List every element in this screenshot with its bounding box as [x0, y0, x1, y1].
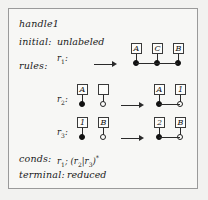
arrow-shaft	[121, 105, 139, 106]
node-marker-open	[100, 134, 106, 140]
node-box-B: B	[175, 117, 186, 128]
node-marker-open	[100, 101, 106, 107]
conds-label: conds:	[19, 153, 52, 164]
graph-edge	[159, 104, 180, 105]
node-box-2: 2	[154, 117, 165, 128]
conds-star: *	[96, 154, 99, 162]
graph-edge	[159, 137, 180, 138]
node-box-B: B	[173, 43, 184, 54]
terminal-label: terminal:	[19, 169, 65, 180]
node-marker-filled	[79, 134, 85, 140]
rewrite-arrow-icon	[121, 134, 143, 143]
arrow-shaft	[121, 138, 139, 139]
rule-name-r2: r2:	[57, 94, 68, 106]
rule-name-colon: :	[65, 127, 68, 137]
arrow-head	[139, 135, 144, 141]
figure-title: handle1	[19, 18, 59, 29]
rules-label: rules:	[19, 60, 48, 71]
initial-value: unlabeled	[57, 36, 104, 47]
arrow-head	[139, 102, 144, 108]
node-box-A: A	[154, 84, 165, 95]
node-box-1: 1	[175, 84, 186, 95]
rewrite-arrow-icon	[121, 101, 143, 110]
node-box-B: B	[98, 117, 109, 128]
figure-frame: handle1 initial: unlabeled rules: conds:…	[8, 8, 198, 189]
node-box-C: C	[152, 43, 163, 54]
node-box-A: A	[131, 43, 142, 54]
terminal-value: reduced	[67, 169, 106, 180]
node-box-A: A	[77, 84, 88, 95]
node-box-empty	[98, 84, 109, 95]
rewrite-arrow-icon	[94, 60, 116, 69]
arrow-shaft	[94, 64, 112, 65]
rule-name-r1: r1:	[57, 53, 68, 65]
node-marker-filled	[79, 101, 85, 107]
graph-edge	[136, 63, 178, 64]
node-box-1: 1	[77, 117, 88, 128]
initial-label: initial:	[19, 36, 52, 47]
arrow-head	[112, 61, 117, 67]
rule-name-r3: r3:	[57, 127, 68, 139]
rule-name-colon: :	[65, 53, 68, 63]
conds-sep: ; (	[65, 156, 74, 166]
rule-name-colon: :	[65, 94, 68, 104]
conds-expression: r1; (r2|r3)*	[57, 154, 99, 168]
